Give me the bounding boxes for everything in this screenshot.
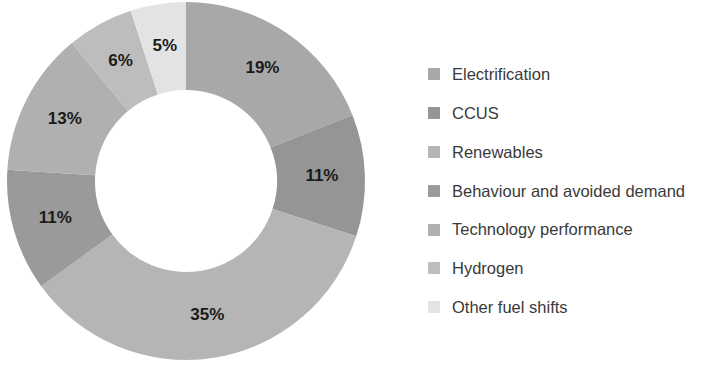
- legend-item-label: Technology performance: [452, 221, 633, 238]
- legend-item-label: Hydrogen: [452, 260, 524, 277]
- legend-item[interactable]: Behaviour and avoided demand: [428, 171, 727, 210]
- legend-item-label: Other fuel shifts: [452, 299, 568, 316]
- legend-item[interactable]: Electrification: [428, 55, 727, 94]
- slice-value-label: 5%: [152, 36, 177, 55]
- legend-item-label: Renewables: [452, 144, 543, 161]
- chart-legend: ElectrificationCCUSRenewablesBehaviour a…: [428, 55, 727, 327]
- legend-item-label: CCUS: [452, 105, 499, 122]
- legend-swatch-icon: [428, 146, 440, 158]
- legend-swatch-icon: [428, 301, 440, 313]
- donut-chart-figure: 19%11%35%11%13%6%5% ElectrificationCCUSR…: [0, 0, 727, 372]
- legend-swatch-icon: [428, 224, 440, 236]
- legend-item[interactable]: CCUS: [428, 94, 727, 133]
- legend-swatch-icon: [428, 107, 440, 119]
- slice-value-label: 11%: [39, 208, 72, 227]
- donut-svg: 19%11%35%11%13%6%5%: [0, 0, 400, 372]
- legend-swatch-icon: [428, 262, 440, 274]
- legend-item[interactable]: Other fuel shifts: [428, 288, 727, 327]
- legend-item-label: Behaviour and avoided demand: [452, 183, 685, 200]
- donut-plot-area: 19%11%35%11%13%6%5%: [0, 0, 400, 372]
- legend-item[interactable]: Renewables: [428, 133, 727, 172]
- slice-value-label: 19%: [245, 58, 279, 77]
- legend-item-label: Electrification: [452, 66, 550, 83]
- slice-value-label: 35%: [190, 305, 224, 324]
- legend-item[interactable]: Technology performance: [428, 210, 727, 249]
- legend-swatch-icon: [428, 185, 440, 197]
- slice-value-label: 11%: [305, 166, 338, 185]
- legend-swatch-icon: [428, 68, 440, 80]
- slice-value-label: 13%: [48, 109, 82, 128]
- legend-item[interactable]: Hydrogen: [428, 249, 727, 288]
- slice-value-label: 6%: [108, 51, 133, 70]
